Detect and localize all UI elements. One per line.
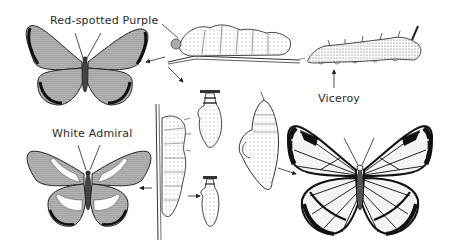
viceroy-butterfly [288,126,432,234]
illustration-canvas [0,0,454,247]
white-admiral-butterfly [27,145,151,226]
arrow-to-chrysalis [168,67,183,82]
red-spotted-purple-butterfly [26,26,148,105]
label-viceroy: Viceroy [318,92,360,105]
viceroy-caterpillar [300,26,421,64]
chrysalis-large [239,92,278,189]
arrow-to-red-spotted-purple [146,57,165,62]
label-red-spotted-purple: Red-spotted Purple [50,14,159,27]
label-white-admiral: White Admiral [52,127,133,140]
chrysalis-small-bottom [201,176,219,226]
chrysalis-small-top [198,90,222,147]
illustration: Red-spotted Purple White Admiral Viceroy [0,0,454,247]
caterpillar-on-stem [156,104,191,240]
arrow-to-viceroy-adult [278,168,296,174]
caterpillar-on-twig [162,24,300,64]
